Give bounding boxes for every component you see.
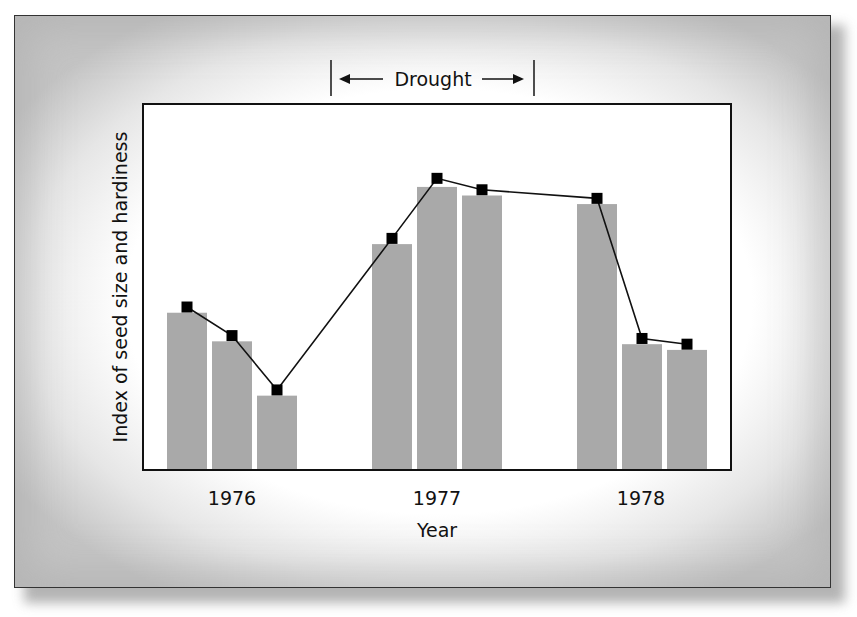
x-tick-1978: 1978: [617, 487, 665, 509]
arrow-left-icon: [339, 74, 350, 84]
bar-1978-b: [622, 344, 662, 470]
square-marker-icon: [227, 330, 238, 341]
bar-1977-a: [372, 244, 412, 470]
drought-annotation: Drought: [331, 60, 534, 96]
bar-1978-c: [667, 350, 707, 470]
square-marker-icon: [432, 173, 443, 184]
square-marker-icon: [637, 333, 648, 344]
square-marker-icon: [182, 302, 193, 313]
y-axis-title: Index of seed size and hardiness: [109, 132, 131, 443]
square-marker-icon: [592, 193, 603, 204]
bar-1977-b: [417, 187, 457, 470]
arrow-right-icon: [513, 74, 524, 84]
square-marker-icon: [477, 184, 488, 195]
bar-1976-b: [212, 341, 252, 470]
square-marker-icon: [272, 384, 283, 395]
square-marker-icon: [682, 339, 693, 350]
chart-svg: Drought 1976 1977 1978 Year Index of see…: [0, 0, 857, 617]
bar-1976-a: [167, 313, 207, 470]
drought-label: Drought: [394, 68, 471, 90]
bar-1976-c: [257, 396, 297, 470]
x-axis-title: Year: [416, 519, 457, 541]
bar-1977-c: [462, 196, 502, 471]
square-marker-icon: [387, 233, 398, 244]
x-tick-1976: 1976: [208, 487, 256, 509]
x-tick-1977: 1977: [413, 487, 461, 509]
